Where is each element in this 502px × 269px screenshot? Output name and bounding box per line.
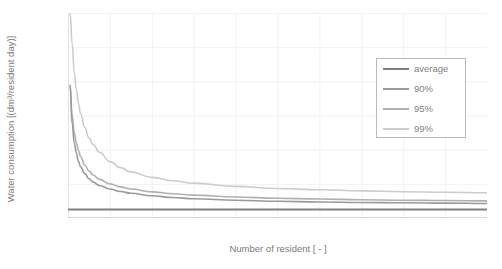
- legend-swatch-icon: [383, 108, 409, 110]
- legend-swatch-icon: [383, 88, 409, 90]
- x-axis-title: Number of resident [ - ]: [68, 243, 488, 254]
- legend-swatch-icon: [383, 68, 409, 70]
- legend-item-label: average: [414, 64, 448, 74]
- water-consumption-chart: Water consumption [(dm³/resident day)] a…: [0, 0, 502, 269]
- legend-swatch-icon: [383, 128, 409, 130]
- legend-item: 99%: [377, 119, 465, 139]
- legend-item: 95%: [377, 99, 465, 119]
- chart-legend: average90%95%99%: [376, 58, 466, 138]
- legend-item-label: 99%: [414, 124, 433, 134]
- legend-item-label: 95%: [414, 104, 433, 114]
- legend-item: 90%: [377, 79, 465, 99]
- legend-item: average: [377, 59, 465, 79]
- legend-item-label: 90%: [414, 84, 433, 94]
